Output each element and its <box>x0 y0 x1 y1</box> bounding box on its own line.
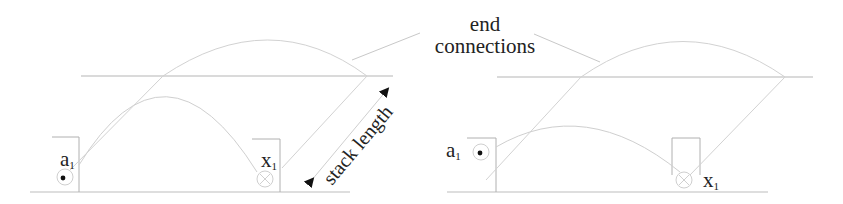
right-lower-arc <box>496 126 680 172</box>
end-connections-line1: end <box>425 13 545 35</box>
right-x1-label: x1 <box>703 170 719 192</box>
left-x1-base: x <box>261 148 272 172</box>
right-a1-dot-icon <box>478 151 483 156</box>
left-a1-dot-icon <box>61 176 66 181</box>
right-connector-a <box>486 77 581 180</box>
left-upper-arc <box>163 40 367 76</box>
end-connections-line2: connections <box>425 35 545 57</box>
right-x1-sub: 1 <box>714 180 720 192</box>
end-connections-label: end connections <box>425 13 545 57</box>
right-connector-x <box>690 77 785 175</box>
left-a1-sub: 1 <box>69 159 75 171</box>
left-panel <box>30 33 420 192</box>
right-a1-label: a1 <box>446 140 461 162</box>
winding-diagram: end connections stack length a1 x1 a1 x1 <box>0 0 843 204</box>
left-leader-line <box>352 33 420 60</box>
right-slot-a <box>467 138 496 192</box>
left-a1-label: a1 <box>60 149 75 171</box>
left-x1-label: x1 <box>261 150 277 172</box>
left-a1-base: a <box>60 147 69 171</box>
left-x1-sub: 1 <box>272 160 278 172</box>
right-x1-base: x <box>703 168 714 192</box>
right-a1-sub: 1 <box>455 150 461 162</box>
right-upper-arc <box>581 42 785 78</box>
right-a1-base: a <box>446 138 455 162</box>
left-connector-a <box>70 76 163 170</box>
